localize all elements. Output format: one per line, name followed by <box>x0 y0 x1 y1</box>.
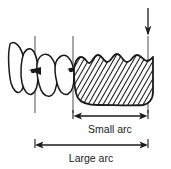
dental-arch-diagram: Small arc Large arc <box>0 0 171 169</box>
span-outline <box>74 54 153 105</box>
contact-node-left <box>31 69 35 73</box>
contact-node-right <box>69 68 73 72</box>
small-arc-label: Small arc <box>88 123 132 135</box>
large-arc-label: Large arc <box>69 152 113 164</box>
